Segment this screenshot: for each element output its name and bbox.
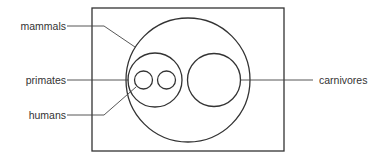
- humans-circle: [135, 71, 153, 89]
- other-primate-circle: [158, 71, 176, 89]
- carnivores-circle: [188, 54, 241, 107]
- mammals-label: mammals: [20, 20, 66, 32]
- primates-circle: [128, 53, 182, 107]
- humans-leader-line: [67, 87, 136, 115]
- humans-label: humans: [29, 109, 66, 121]
- euler-diagram: mammals primates humans carnivores: [0, 0, 385, 158]
- carnivores-label: carnivores: [319, 74, 367, 86]
- mammals-leader-line: [67, 26, 135, 47]
- primates-label: primates: [26, 74, 66, 86]
